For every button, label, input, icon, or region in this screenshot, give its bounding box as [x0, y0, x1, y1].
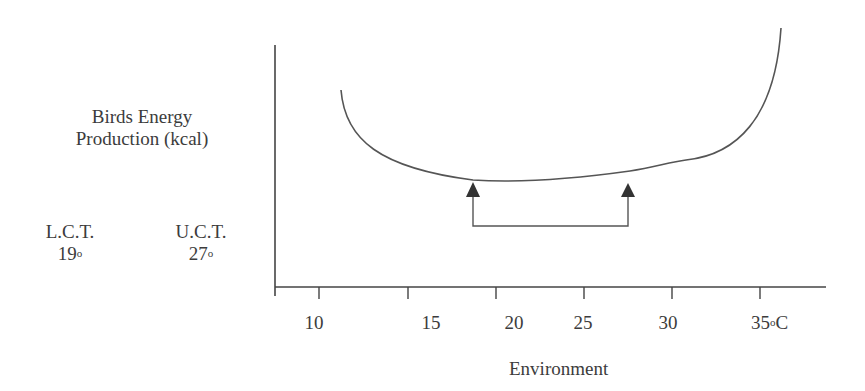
- uct-value: 27o: [161, 243, 241, 265]
- y-axis-label: Birds Energy Production (kcal): [62, 106, 222, 150]
- y-axis-label-line1: Birds Energy: [62, 106, 222, 128]
- energy-curve: [341, 28, 781, 181]
- x-tick-label-15: 15: [411, 312, 451, 334]
- uct-annotation: U.C.T. 27o: [161, 221, 241, 265]
- thermoneutral-bracket: [473, 197, 628, 226]
- uct-arrow-icon: [621, 183, 635, 197]
- x-tick-label-10: 10: [294, 312, 334, 334]
- y-axis-label-line2: Production (kcal): [62, 128, 222, 150]
- lct-annotation: L.C.T. 19o: [30, 221, 110, 265]
- x-tick-label-35: 35oC: [751, 312, 788, 334]
- x-tick-label-30: 30: [648, 312, 688, 334]
- x-tick-label-25: 25: [563, 312, 603, 334]
- x-tick-label-20: 20: [494, 312, 534, 334]
- x-axis-label: Environment: [509, 358, 608, 380]
- lct-value: 19o: [30, 243, 110, 265]
- lct-title: L.C.T.: [30, 221, 110, 243]
- x-axis-ticks: [319, 287, 760, 299]
- uct-title: U.C.T.: [161, 221, 241, 243]
- lct-arrow-icon: [466, 182, 480, 197]
